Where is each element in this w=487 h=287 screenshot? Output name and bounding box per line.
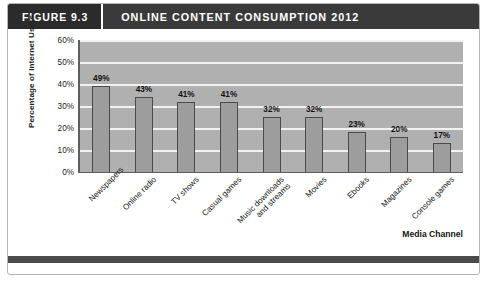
bar-value-label: 49% xyxy=(93,74,109,83)
plot-area: 49%43%41%41%32%32%23%20%17% xyxy=(78,40,463,173)
x-axis-category-label: TV shows xyxy=(112,175,201,264)
bar-value-label: 43% xyxy=(136,85,152,94)
y-axis-tick-label: 60% xyxy=(30,36,74,45)
y-axis-tick-label: 20% xyxy=(30,124,74,133)
x-axis-category-label-line: Newspapers xyxy=(87,175,116,204)
chart-body: Percentage of Internet Users 60%50%40%30… xyxy=(8,29,480,251)
x-axis-category-label: Newspapers xyxy=(87,175,116,204)
figure-header: FIGURE 9.3 ONLINE CONTENT CONSUMPTION 20… xyxy=(8,4,480,29)
bar[interactable]: 41% xyxy=(177,102,195,172)
bar[interactable]: 32% xyxy=(305,117,323,172)
bar-slot: 32% xyxy=(293,40,336,172)
bar-slot: 41% xyxy=(208,40,251,172)
bar-value-label: 32% xyxy=(263,105,279,114)
bar-slot: 20% xyxy=(378,40,421,172)
bar[interactable]: 41% xyxy=(220,102,238,172)
x-axis-category-label-line: TV shows xyxy=(112,175,201,264)
bar-series: 49%43%41%41%32%32%23%20%17% xyxy=(80,40,463,172)
y-axis-tick-label: 30% xyxy=(30,102,74,111)
bar-value-label: 23% xyxy=(348,120,364,129)
bar[interactable]: 32% xyxy=(263,117,281,172)
y-axis-tick-label: 50% xyxy=(30,58,74,67)
bar-slot: 43% xyxy=(123,40,166,172)
figure-bottom-rule xyxy=(8,256,480,263)
bar-value-label: 32% xyxy=(306,105,322,114)
bar-slot: 41% xyxy=(165,40,208,172)
y-axis-tick-labels: 60%50%40%30%20%10%0% xyxy=(30,40,74,172)
bar[interactable]: 43% xyxy=(135,97,153,172)
bar-value-label: 41% xyxy=(178,90,194,99)
bar-slot: 17% xyxy=(421,40,464,172)
y-axis-tick-label: 10% xyxy=(30,146,74,155)
figure-box: FIGURE 9.3 ONLINE CONTENT CONSUMPTION 20… xyxy=(7,3,480,275)
bar[interactable]: 49% xyxy=(92,86,110,172)
figure-number-label: FIGURE 9.3 xyxy=(8,4,103,29)
bar-slot: 23% xyxy=(335,40,378,172)
bar[interactable]: 23% xyxy=(348,132,366,172)
y-axis-tick-label: 40% xyxy=(30,80,74,89)
bar-value-label: 17% xyxy=(434,131,450,140)
figure-title: ONLINE CONTENT CONSUMPTION 2012 xyxy=(103,4,359,29)
bar-slot: 49% xyxy=(80,40,123,172)
y-axis-tick-label: 0% xyxy=(30,168,74,177)
bar-slot: 32% xyxy=(250,40,293,172)
bar-value-label: 20% xyxy=(391,125,407,134)
bar[interactable]: 20% xyxy=(390,137,408,172)
x-axis-title: Media Channel xyxy=(402,229,463,239)
bar[interactable]: 17% xyxy=(433,143,451,172)
bar-value-label: 41% xyxy=(221,90,237,99)
